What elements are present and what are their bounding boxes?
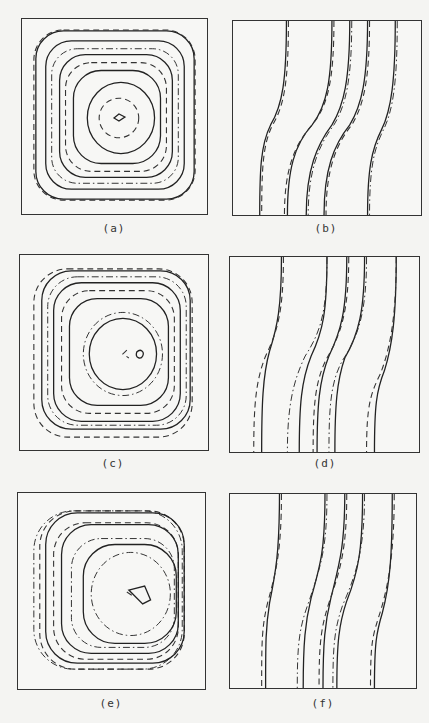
contour-plot-b — [233, 21, 421, 215]
panel-f-isotherms — [229, 493, 417, 689]
panel-a-streamlines — [21, 18, 208, 215]
panel-label-e: (e) — [91, 697, 131, 710]
contour-plot-c — [20, 255, 208, 450]
contour-plot-e — [18, 493, 205, 689]
panel-b-isotherms — [232, 20, 422, 216]
panel-label-b: (b) — [306, 222, 346, 235]
panel-label-d: (d) — [305, 457, 345, 470]
panel-label-a: (a) — [94, 222, 134, 235]
contour-plot-a — [22, 19, 207, 214]
panel-d-isotherms — [229, 256, 420, 453]
panel-label-c: (c) — [93, 457, 133, 470]
contour-plot-d — [230, 257, 419, 452]
panel-c-streamlines — [19, 254, 209, 451]
panel-e-streamlines — [17, 492, 206, 690]
contour-plot-f — [230, 494, 416, 688]
panel-label-f: (f) — [303, 697, 343, 710]
